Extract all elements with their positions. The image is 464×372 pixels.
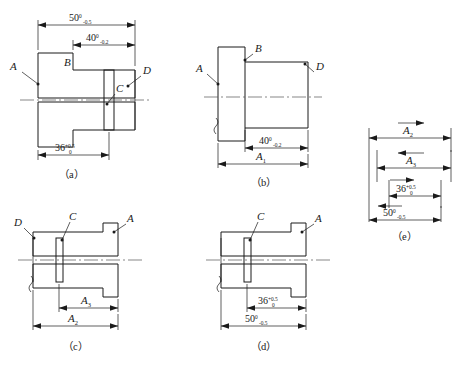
caption-b: （b） xyxy=(251,177,276,188)
view-e-link-A2: A2 xyxy=(402,124,413,138)
caption-c: （c） xyxy=(63,341,88,352)
caption-e: （e） xyxy=(392,231,417,242)
view-c-lower-wall xyxy=(33,264,118,297)
view-a-dim-40: 400-0.2 xyxy=(86,32,109,45)
view-c-dim-A2: A2 xyxy=(67,312,78,326)
view-a: A B D C 500-0.5 400-0.2 36+0.50 （a） xyxy=(9,12,152,180)
view-a-dim-36: 36+0.50 xyxy=(55,142,75,155)
view-b-break-symbol xyxy=(214,118,218,134)
view-c-break-symbol xyxy=(29,276,33,292)
view-d-lower-wall xyxy=(221,264,306,297)
drawing-sheet: A B D C 500-0.5 400-0.2 36+0.50 （a） xyxy=(0,0,464,372)
view-b-label-B: B xyxy=(255,42,262,54)
view-d-break-symbol xyxy=(217,276,221,292)
view-d-label-A: A xyxy=(314,212,322,224)
view-d: C A 36+0.50 500-0.5 （d） xyxy=(206,210,330,352)
view-c-label-C: C xyxy=(69,210,77,222)
view-d-upper-wall xyxy=(221,223,306,256)
view-e-link-A3: A3 xyxy=(405,154,416,168)
view-b-dim-A1: A1 xyxy=(255,150,266,164)
view-e-link-50: 500-0.5 xyxy=(383,207,406,220)
caption-d: （d） xyxy=(251,341,276,352)
view-b-flange xyxy=(218,47,245,141)
view-a-label-B: B xyxy=(64,56,71,68)
view-c-upper-wall xyxy=(33,223,118,256)
view-a-label-A: A xyxy=(9,60,17,72)
view-c-label-D: D xyxy=(13,216,22,228)
view-d-label-C: C xyxy=(257,210,265,222)
view-c: D C A A3 A2 （c） xyxy=(13,210,142,352)
caption-a: （a） xyxy=(59,169,84,180)
view-d-dim-36: 36+0.50 xyxy=(258,295,278,308)
view-b-body xyxy=(245,62,308,128)
view-c-dim-A3: A3 xyxy=(80,294,91,308)
view-b-label-D: D xyxy=(315,60,324,72)
view-a-dim-50: 500-0.5 xyxy=(69,12,92,25)
view-b: A B D 400-0.2 A1 （b） xyxy=(195,42,324,188)
view-a-lower-wall xyxy=(38,102,135,147)
view-e-link-36: 36+0.50 xyxy=(396,183,416,196)
view-b-dim-40: 400-0.2 xyxy=(259,135,282,148)
view-c-label-A: A xyxy=(126,212,134,224)
view-e: A2 A3 36+0.50 500-0.5 （e） xyxy=(369,123,451,242)
view-d-dim-50: 500-0.5 xyxy=(245,313,268,326)
view-a-label-C: C xyxy=(116,82,124,94)
view-a-label-D: D xyxy=(142,64,151,76)
view-b-label-A: A xyxy=(195,62,203,74)
